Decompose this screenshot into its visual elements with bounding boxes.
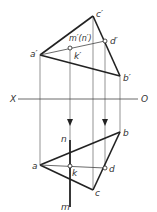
top-view-triangle: [40, 132, 120, 190]
label-k-prime: k′: [74, 51, 81, 61]
front-view-triangle: [40, 16, 120, 76]
arrow-down-icon: [67, 119, 73, 126]
label-mn-prime: m′(n′): [69, 34, 92, 43]
label-b: b: [123, 128, 129, 138]
label-a: a: [32, 161, 38, 171]
point-d: [103, 166, 107, 170]
label-b-prime: b′: [123, 73, 131, 83]
point-k-prime: [68, 46, 72, 50]
axis-label-x: X: [9, 94, 17, 104]
label-d: d: [109, 164, 115, 174]
axis-label-o: O: [141, 94, 148, 104]
label-k: k: [72, 168, 78, 178]
label-c: c: [95, 188, 100, 198]
point-d-prime: [103, 39, 107, 43]
projection-diagram: X O a′ b′ c′ d′ k′ m′(n′) a b c d k n m: [0, 0, 157, 212]
arrow-down-icon: [102, 119, 108, 126]
label-d-prime: d′: [110, 36, 118, 46]
label-m: m: [61, 202, 70, 212]
label-a-prime: a′: [30, 49, 38, 59]
label-c-prime: c′: [96, 9, 103, 19]
label-n: n: [61, 134, 67, 144]
